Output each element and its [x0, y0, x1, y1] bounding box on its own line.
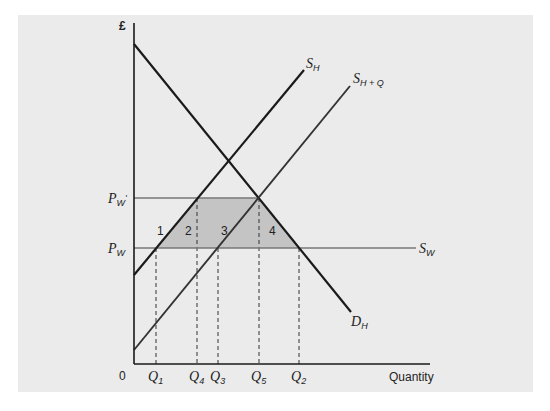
supply-curve-sh-plus-q — [134, 86, 350, 350]
label-sw: SW — [419, 241, 436, 258]
region-label-1: 1 — [157, 224, 164, 238]
label-sh-plus-q: SH + Q — [353, 71, 384, 88]
price-labels: PW'PW — [107, 191, 127, 258]
x-axis-label: Quantity — [389, 370, 434, 384]
label-q5: Q5 — [251, 369, 267, 386]
region-label-2: 2 — [185, 224, 192, 238]
origin-label: 0 — [119, 369, 126, 383]
label-pw-prime: PW' — [107, 191, 127, 208]
label-q4: Q4 — [189, 369, 204, 386]
label-q1: Q1 — [148, 369, 163, 386]
region-label-4: 4 — [269, 224, 276, 238]
demand-curve-dh — [134, 44, 351, 312]
label-pw: PW — [107, 241, 127, 258]
tariff-quota-diagram: £ 0 Quantity SHSH + QDHSW PW'PW Q1Q4Q3Q5… — [0, 0, 550, 411]
label-q3: Q3 — [210, 369, 225, 386]
label-q2: Q2 — [291, 369, 306, 386]
region-label-3: 3 — [221, 224, 228, 238]
quantity-labels: Q1Q4Q3Q5Q2 — [148, 369, 306, 386]
label-dh: DH — [350, 314, 368, 331]
curve-labels: SHSH + QDHSW — [306, 56, 436, 331]
y-axis-label: £ — [119, 19, 126, 33]
label-sh: SH — [306, 56, 320, 73]
